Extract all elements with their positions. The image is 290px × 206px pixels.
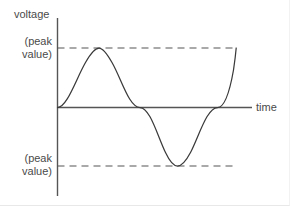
peak-positive-label: (peak value) <box>12 35 52 61</box>
peak-negative-label-line1: (peak <box>12 152 52 165</box>
peak-negative-label: (peak value) <box>12 152 52 178</box>
peak-positive-label-line1: (peak <box>12 35 52 48</box>
axes-group <box>58 18 253 196</box>
x-axis-label: time <box>256 101 277 114</box>
y-axis-label: voltage <box>14 8 49 21</box>
peak-negative-label-line2: value) <box>12 165 52 178</box>
waveform-figure: voltage time (peak value) (peak value) <box>0 0 290 206</box>
peak-positive-label-line2: value) <box>12 48 52 61</box>
